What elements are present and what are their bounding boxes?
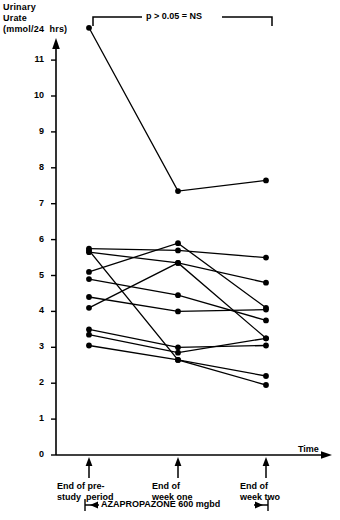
y-tick-label: 8 xyxy=(28,162,44,172)
data-point xyxy=(263,280,269,286)
data-point xyxy=(86,248,92,254)
data-point xyxy=(263,307,269,313)
data-point xyxy=(86,276,92,282)
series-line xyxy=(89,28,266,191)
data-point xyxy=(86,269,92,275)
x-axis-arrowhead xyxy=(321,451,332,459)
y-tick-label: 0 xyxy=(28,449,44,459)
p-value-annotation: p > 0.05 = NS xyxy=(146,11,202,21)
data-point xyxy=(263,382,269,388)
y-tick-label: 4 xyxy=(28,305,44,315)
y-tick-label: 9 xyxy=(28,126,44,136)
timepoint-arrowhead xyxy=(263,457,270,466)
x-axis-label: Time xyxy=(298,444,319,454)
urinary-urate-chart: Urinary Urate (mmol/24 hrs) p > 0.05 = N… xyxy=(0,0,340,520)
data-point xyxy=(263,335,269,341)
data-point xyxy=(263,178,269,184)
data-point xyxy=(263,318,269,324)
data-point xyxy=(263,373,269,379)
x-category-label: End of pre- study period xyxy=(57,481,114,503)
y-tick-label: 2 xyxy=(28,377,44,387)
data-point xyxy=(175,188,181,194)
y-tick-label: 7 xyxy=(28,198,44,208)
data-point xyxy=(175,292,181,298)
data-point xyxy=(263,255,269,261)
data-point xyxy=(86,332,92,338)
data-point xyxy=(175,240,181,246)
data-point xyxy=(175,309,181,315)
y-tick-label: 3 xyxy=(28,341,44,351)
data-point xyxy=(86,25,92,31)
data-point xyxy=(86,294,92,300)
data-point xyxy=(175,344,181,350)
data-point xyxy=(86,343,92,349)
timepoint-arrowhead xyxy=(86,457,93,466)
plot-canvas xyxy=(0,0,340,520)
y-tick-label: 10 xyxy=(28,90,44,100)
x-category-label: End of week one xyxy=(152,481,193,503)
data-point xyxy=(175,357,181,363)
series-lines xyxy=(89,28,266,385)
data-point xyxy=(175,248,181,254)
series-line xyxy=(89,250,266,385)
y-tick-label: 1 xyxy=(28,413,44,423)
data-point xyxy=(175,350,181,356)
y-tick-label: 5 xyxy=(28,270,44,280)
x-category-label: End of week two xyxy=(240,481,280,503)
timepoint-arrows xyxy=(86,457,270,478)
data-point xyxy=(86,327,92,333)
y-tick-label: 6 xyxy=(28,234,44,244)
timepoint-arrowhead xyxy=(175,457,182,466)
series-line xyxy=(89,263,266,338)
series-line xyxy=(89,252,266,283)
data-point xyxy=(86,305,92,311)
y-tick-label: 11 xyxy=(28,54,44,64)
data-point xyxy=(175,260,181,266)
data-point xyxy=(263,343,269,349)
y-axis-arrowhead xyxy=(52,38,60,49)
series-points xyxy=(86,25,269,388)
